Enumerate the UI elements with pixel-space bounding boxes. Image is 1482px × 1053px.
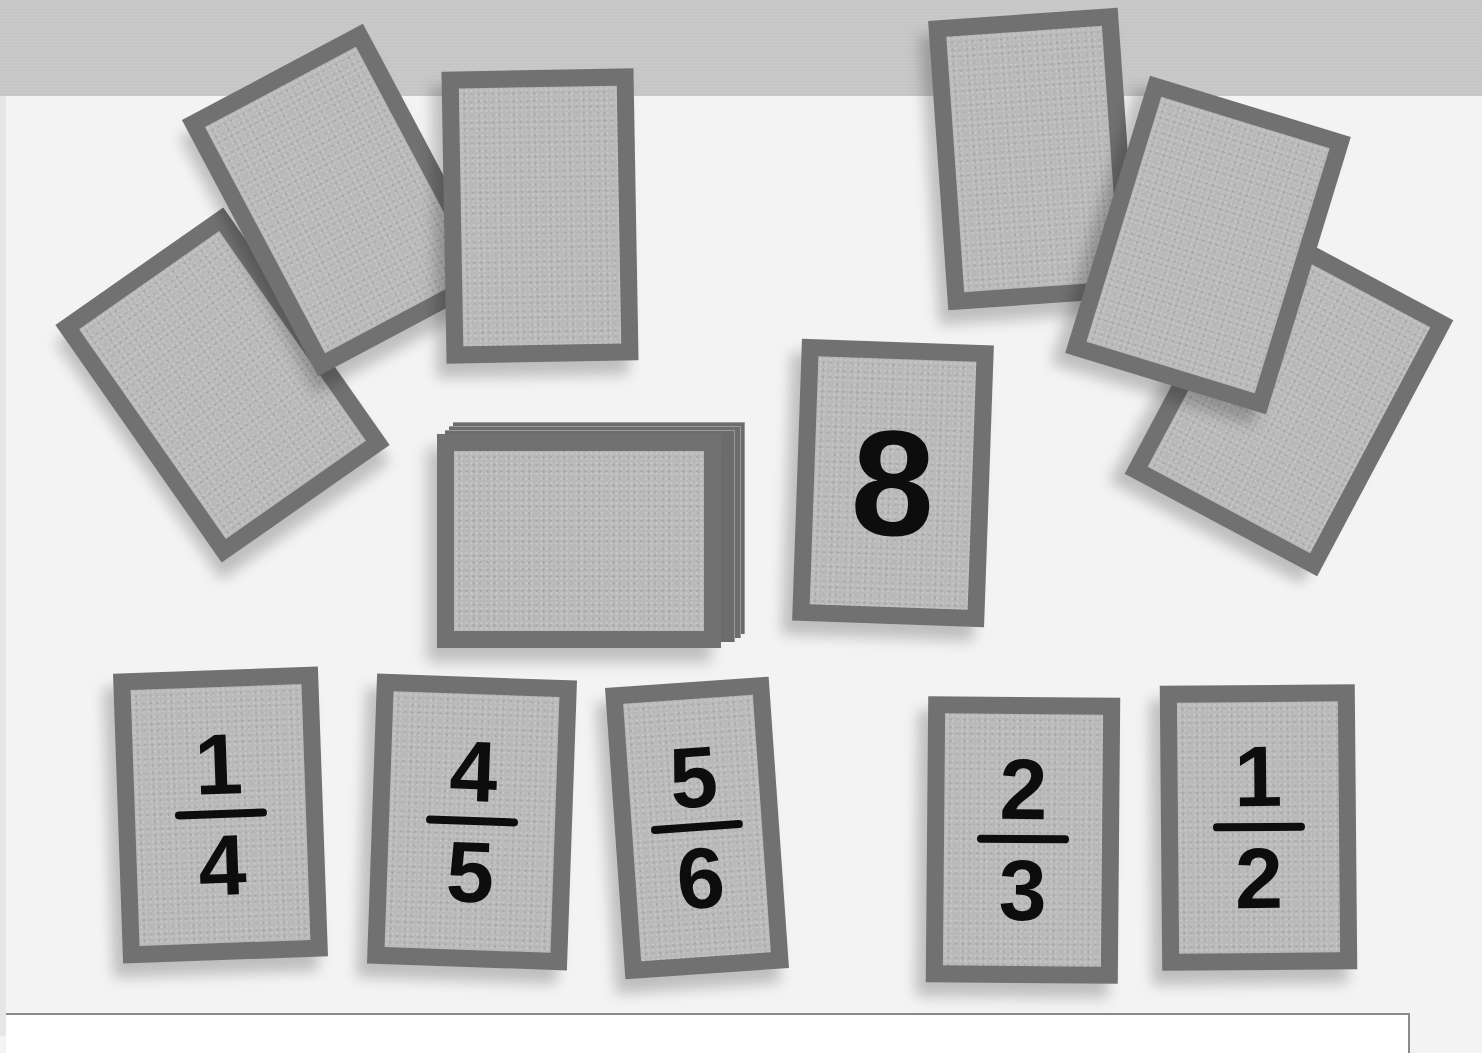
revealed-card-value: 8	[849, 407, 938, 560]
fraction: 5 6	[645, 735, 749, 921]
card-deck[interactable]	[437, 422, 747, 652]
fraction-numerator: 4	[448, 731, 499, 812]
fraction-numerator: 1	[1234, 737, 1283, 817]
fraction: 4 5	[423, 730, 521, 913]
fraction-card-3[interactable]: 5 6	[605, 677, 789, 980]
card-face: 8	[810, 356, 977, 609]
fraction-card-1[interactable]: 1 4	[113, 667, 328, 964]
fraction-denominator: 2	[1235, 838, 1284, 918]
face-down-card-top-left-3[interactable]	[441, 68, 638, 363]
left-edge-strip	[0, 96, 6, 1036]
card-face	[459, 86, 621, 347]
fraction-card-2[interactable]: 4 5	[367, 674, 577, 971]
fraction: 2 3	[976, 749, 1070, 930]
bottom-panel	[6, 1013, 1410, 1053]
fraction: 1 2	[1212, 737, 1306, 918]
card-face: 5 6	[623, 695, 771, 961]
fraction-numerator: 5	[667, 736, 720, 818]
fraction-numerator: 2	[999, 750, 1048, 830]
fraction-denominator: 5	[445, 832, 496, 913]
fraction: 1 4	[171, 723, 269, 906]
deck-top-card	[437, 434, 721, 648]
fraction-card-4[interactable]: 2 3	[926, 696, 1120, 984]
fraction-numerator: 1	[193, 724, 244, 805]
card-face: 1 2	[1177, 701, 1340, 953]
top-gray-band	[0, 0, 1482, 96]
fraction-denominator: 3	[998, 851, 1047, 931]
fraction-card-5[interactable]: 1 2	[1160, 684, 1357, 971]
card-face: 1 4	[131, 684, 311, 946]
fraction-denominator: 4	[197, 825, 248, 906]
card-face	[454, 451, 704, 631]
fraction-denominator: 6	[674, 837, 727, 919]
card-face	[946, 26, 1119, 292]
card-face: 4 5	[385, 691, 560, 953]
card-face: 2 3	[943, 713, 1103, 966]
revealed-card[interactable]: 8	[792, 339, 994, 628]
